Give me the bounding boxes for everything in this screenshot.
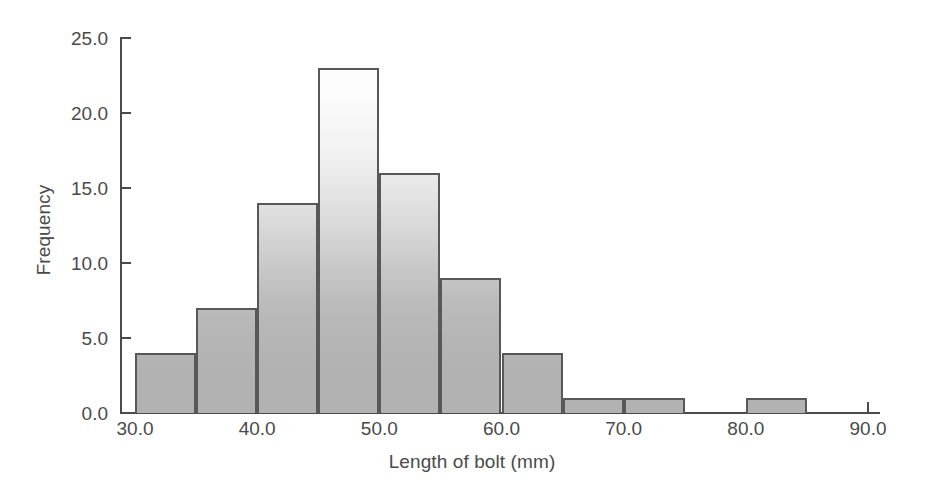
y-axis-line: [120, 38, 122, 414]
x-axis-tick-mark: [867, 402, 869, 413]
x-axis-tick-label: 40.0: [212, 419, 302, 438]
histogram-bar: [563, 398, 624, 413]
histogram-bar: [379, 173, 440, 413]
x-axis-title: Length of bolt (mm): [0, 451, 932, 473]
histogram-bar: [318, 68, 379, 413]
histogram-bar: [135, 353, 196, 413]
x-axis-tick-label: 60.0: [457, 419, 547, 438]
y-axis-tick-mark: [120, 337, 131, 339]
y-axis-tick-mark: [120, 187, 131, 189]
x-axis-tick-label: 70.0: [579, 419, 669, 438]
histogram-bar: [624, 398, 685, 413]
y-axis-tick-label: 20.0: [42, 104, 108, 123]
y-axis-tick-mark: [120, 112, 131, 114]
y-axis-tick-label: 5.0: [42, 329, 108, 348]
x-axis-tick-label: 50.0: [334, 419, 424, 438]
y-axis-tick-mark: [120, 262, 131, 264]
x-axis-tick-label: 90.0: [823, 419, 913, 438]
y-axis-tick-mark: [120, 412, 131, 414]
x-axis-tick-label: 30.0: [90, 419, 180, 438]
histogram-bar: [196, 308, 257, 413]
y-axis-tick-mark: [120, 37, 131, 39]
histogram-bar: [746, 398, 807, 413]
x-axis-tick-label: 80.0: [701, 419, 791, 438]
y-axis-title: Frequency: [31, 150, 57, 310]
histogram-bar: [440, 278, 501, 413]
histogram-figure: 0.05.010.015.020.025.0 30.040.050.060.07…: [0, 0, 932, 493]
y-axis-tick-label: 25.0: [42, 29, 108, 48]
histogram-bar: [257, 203, 318, 413]
histogram-bar: [502, 353, 563, 413]
